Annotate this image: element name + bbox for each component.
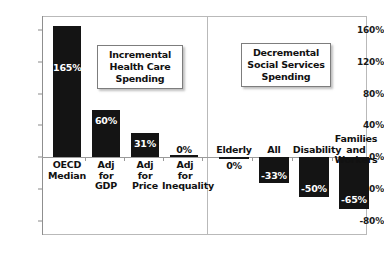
callout-decremental-social-services: Decremental Social Services Spending — [241, 43, 331, 87]
x-label-adj-for-price: Adj for Price — [128, 160, 162, 192]
bar-value-label: -50% — [299, 183, 329, 194]
x-tick-mark — [124, 157, 125, 161]
bar-elderly[interactable]: 0% — [219, 157, 249, 159]
y-tick-mark — [38, 189, 42, 190]
bar-adj-for-price[interactable]: 31% — [131, 133, 159, 158]
x-label-adj-for-inequality: Adj for Inequality — [162, 160, 208, 192]
x-label-all: All — [256, 145, 292, 156]
x-tick-mark — [252, 157, 253, 161]
bar-value-label: 0% — [170, 144, 198, 155]
bar-all[interactable]: -33% — [259, 157, 289, 183]
bar-value-label: 165% — [53, 62, 81, 73]
callout-incremental-health-care: Incremental Health Care Spending — [97, 45, 183, 89]
y-tick-mark — [38, 30, 42, 31]
bar-value-label: 31% — [131, 138, 159, 149]
y-tick-mark — [38, 125, 42, 126]
bar-value-label: -33% — [259, 170, 289, 181]
y-axis-line — [42, 16, 43, 235]
y-tick-label: 160% — [346, 25, 384, 35]
bar-value-label: -65% — [339, 194, 369, 205]
y-tick-label: 80% — [346, 89, 384, 99]
bar-oecd-median[interactable]: 165% — [53, 26, 81, 157]
y-tick-mark — [38, 61, 42, 62]
x-label-oecd-median: OECD Median — [46, 160, 88, 181]
y-tick-label: -80% — [346, 216, 384, 226]
panel-divider — [207, 16, 208, 235]
bar-disability[interactable]: -50% — [299, 157, 329, 197]
x-label-adj-for-gdp: Adj for GDP — [89, 160, 123, 192]
x-label-elderly: Elderly — [212, 145, 256, 156]
y-tick-mark — [38, 220, 42, 221]
x-tick-mark — [292, 157, 293, 161]
bar-value-label: 60% — [92, 115, 120, 126]
y-tick-label: 120% — [346, 57, 384, 67]
y-tick-mark — [38, 93, 42, 94]
y-tick-label: 40% — [346, 120, 384, 130]
bar-adj-for-gdp[interactable]: 60% — [92, 110, 120, 158]
bar-chart: 160% 120% 80% 40% 0% -40% -80% 165% OECD… — [0, 0, 384, 255]
bar-value-label: 0% — [219, 160, 249, 171]
x-label-families-and-workers: Families and Workers — [333, 134, 379, 166]
bar-adj-for-inequality[interactable]: 0% — [170, 155, 198, 157]
